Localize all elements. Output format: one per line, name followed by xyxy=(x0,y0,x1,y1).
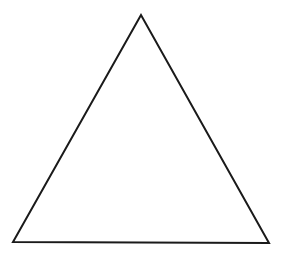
diagram-canvas xyxy=(0,0,288,260)
triangle-shape xyxy=(13,15,269,243)
triangle-figure xyxy=(0,0,288,260)
